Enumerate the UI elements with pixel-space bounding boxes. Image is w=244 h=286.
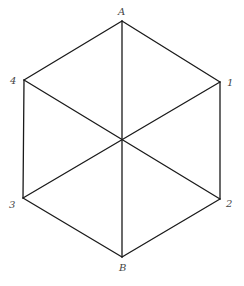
edge-3-4 (23, 80, 24, 198)
label-2: 2 (225, 198, 232, 209)
edge-2-B (122, 199, 220, 257)
label-4: 4 (9, 75, 16, 86)
label-B: B (118, 262, 126, 273)
edge-4-A (24, 21, 122, 80)
edge-A-1 (122, 21, 220, 82)
hexagon-diagonals (23, 21, 220, 257)
label-3: 3 (9, 199, 15, 210)
hexagon-diagram: A 1 2 B 3 4 (0, 0, 244, 286)
label-A: A (117, 6, 125, 17)
label-1: 1 (227, 77, 233, 88)
edge-B-3 (23, 198, 122, 257)
